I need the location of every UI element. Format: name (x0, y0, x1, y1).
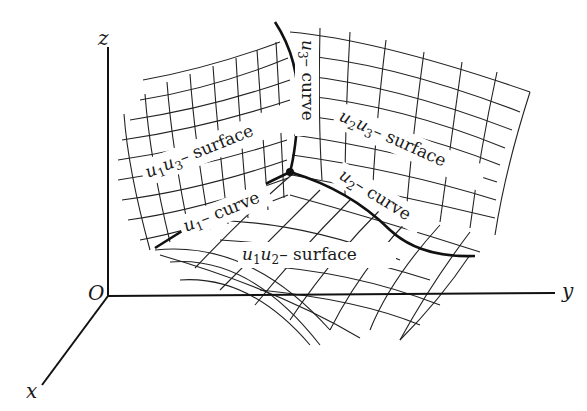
x-axis-label: x (26, 379, 37, 403)
curvilinear-coordinates-diagram: z y x O u1u3– surface u2u3– surface u1u2… (0, 0, 587, 411)
u3-curve-line (275, 22, 298, 172)
intersection-point (286, 168, 294, 176)
y-axis (108, 293, 555, 296)
u3-curve-label: u3– curve (295, 36, 319, 136)
u1u2-surface-label: u1u2– surface (238, 242, 396, 268)
y-axis-label: y (561, 279, 574, 303)
z-axis-label: z (97, 26, 109, 50)
x-axis (42, 296, 108, 385)
u1-curve-label: u1– curve (176, 182, 274, 240)
u2-curve-label: u2– curve (331, 161, 429, 234)
origin-label: O (88, 281, 104, 305)
